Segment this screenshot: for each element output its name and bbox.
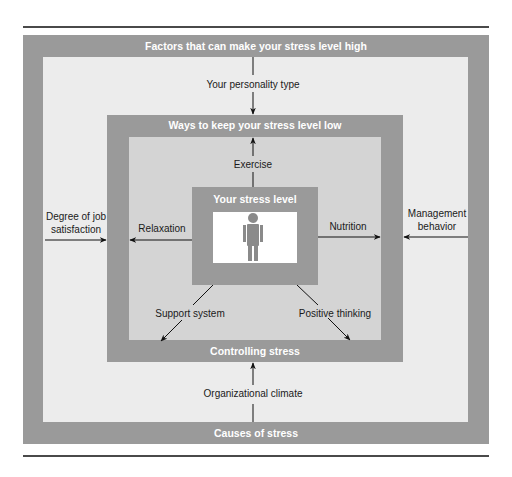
control-positive-thinking: Positive thinking bbox=[280, 307, 390, 320]
factor-management-behavior: Management behavior bbox=[402, 207, 472, 233]
factor-organizational-climate: Organizational climate bbox=[173, 387, 333, 400]
person-icon bbox=[243, 213, 263, 261]
control-relaxation: Relaxation bbox=[130, 222, 194, 235]
control-support-system: Support system bbox=[140, 307, 240, 320]
control-exercise: Exercise bbox=[213, 158, 293, 171]
factor-job-satisfaction: Degree of job satisfaction bbox=[44, 210, 108, 236]
control-nutrition: Nutrition bbox=[318, 220, 378, 233]
connector-arrows bbox=[0, 0, 512, 477]
factor-personality-type: Your personality type bbox=[173, 78, 333, 91]
